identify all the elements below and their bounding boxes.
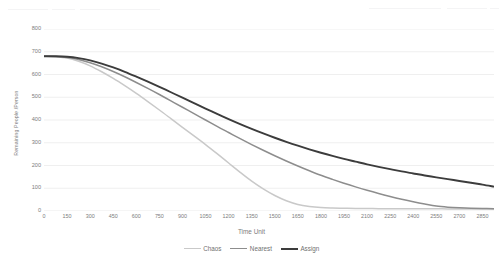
scan-artifact — [8, 9, 48, 10]
legend-swatch-nearest — [230, 248, 247, 249]
legend-item-assign[interactable]: Assign — [281, 245, 319, 252]
chart-legend: ChaosNearestAssign — [0, 245, 503, 252]
line-chart: Remaining People /Person 010020030040050… — [0, 0, 503, 267]
x-axis-tick-label: 2850 — [468, 214, 496, 219]
legend-item-nearest[interactable]: Nearest — [230, 245, 272, 252]
y-axis-tick-label: 200 — [15, 163, 41, 169]
series-line-assign — [44, 56, 494, 186]
y-axis-tick-label: 800 — [15, 26, 41, 32]
legend-swatch-assign — [281, 248, 298, 250]
plot-area — [44, 29, 494, 211]
x-axis-tick-labels: 0150300450600750900105012001350150016501… — [44, 214, 494, 224]
legend-label: Chaos — [203, 245, 221, 252]
series-line-nearest — [44, 56, 494, 208]
scan-artifact — [52, 9, 75, 10]
legend-label: Assign — [300, 245, 319, 252]
scan-artifact — [447, 8, 487, 9]
plot-svg — [44, 29, 494, 211]
scan-artifact — [80, 9, 160, 10]
y-axis-tick-label: 700 — [15, 49, 41, 55]
legend-item-chaos[interactable]: Chaos — [184, 245, 222, 252]
y-axis-tick-label: 300 — [15, 140, 41, 146]
y-axis-tick-label: 0 — [15, 208, 41, 214]
scan-artifact — [490, 8, 499, 9]
x-axis-title: Time Unit — [0, 228, 503, 235]
y-axis-tick-labels: 0100200300400500600700800 — [8, 29, 41, 211]
legend-label: Nearest — [250, 245, 272, 252]
y-axis-tick-label: 400 — [15, 117, 41, 123]
legend-swatch-chaos — [184, 248, 201, 249]
scan-artifact — [369, 8, 441, 9]
y-axis-tick-label: 100 — [15, 185, 41, 191]
y-axis-tick-label: 500 — [15, 94, 41, 100]
y-axis-tick-label: 600 — [15, 72, 41, 78]
series-line-chaos — [44, 56, 494, 209]
